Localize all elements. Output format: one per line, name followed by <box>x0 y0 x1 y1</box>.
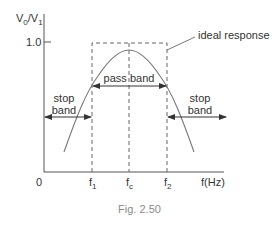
figure-caption: Fig. 2.50 <box>0 203 279 215</box>
ideal-response-leader <box>167 37 195 50</box>
stop-band-right-label-2: band <box>188 104 212 116</box>
ideal-response-label: ideal response <box>198 29 270 41</box>
stop-band-left-label-1: stop <box>54 92 75 104</box>
origin-label: 0 <box>36 176 42 188</box>
y-tick-label: 1.0 <box>26 36 41 48</box>
bandpass-response-diagram: V0/V1 1.0 ideal response pass band stop … <box>0 0 279 227</box>
stop-band-left-label-2: band <box>52 104 76 116</box>
stop-band-right-label-1: stop <box>190 92 211 104</box>
x-tick-fc: fc <box>126 176 133 191</box>
pass-band-label: pass band <box>104 72 155 84</box>
x-tick-f2: f2 <box>164 176 172 191</box>
y-axis-label: V0/V1 <box>16 12 43 27</box>
x-axis-label: f(Hz) <box>201 176 225 188</box>
x-tick-f1: f1 <box>89 176 97 191</box>
